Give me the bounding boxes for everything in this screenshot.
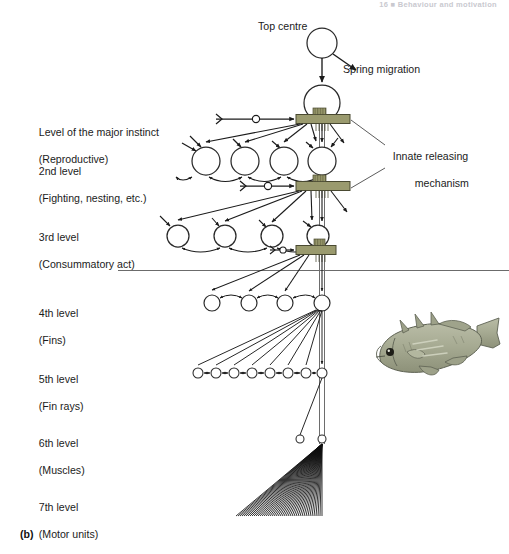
panel-label: (b) [20, 528, 34, 540]
level-7-line1: 7th level [39, 501, 78, 513]
level4-nodes [204, 295, 330, 311]
figure-canvas: 16 ■ Behaviour and motivation [0, 0, 509, 554]
irm-bar-3 [296, 239, 336, 262]
level-label-4: 4th level (Fins) [27, 294, 78, 360]
irm2-fanout [178, 191, 347, 222]
irm-label-line2: mechanism [393, 177, 469, 190]
level-5-line2: (Fin rays) [39, 400, 84, 412]
level5-node [193, 368, 203, 378]
level-label-3: 3rd level (Consummatory act) [27, 218, 135, 284]
block-symbol-2 [240, 181, 294, 191]
motor-unit-fan [236, 444, 322, 516]
level4-node [277, 295, 293, 311]
level-label-6: 6th level (Muscles) [27, 424, 85, 490]
level3-node [214, 225, 236, 247]
irm-bar-2 [296, 175, 350, 198]
level3-node [167, 225, 189, 247]
level5-node [211, 368, 221, 378]
label-innate-releasing-mechanism: Innate releasing mechanism [381, 137, 469, 203]
level-1-line1: Level of the major instinct [39, 126, 159, 138]
top-centre-node [307, 28, 337, 58]
level-4-line1: 4th level [39, 307, 78, 319]
level5-node [229, 368, 239, 378]
level-2-line2: (Fighting, nesting, etc.) [39, 192, 147, 204]
level2-nodes [192, 147, 336, 175]
level5-to-level6 [300, 378, 322, 435]
level-4-line2: (Fins) [39, 334, 66, 346]
level5-node [301, 368, 311, 378]
irm1-fanout [206, 124, 344, 143]
irm-leader-2 [351, 168, 385, 188]
level4-node [204, 295, 220, 311]
level6-node [318, 435, 326, 443]
level-6-line1: 6th level [39, 437, 78, 449]
level-5-line1: 5th level [39, 373, 78, 385]
level-3-line2: (Consummatory act) [39, 258, 135, 270]
level4-fanout [198, 310, 322, 365]
level2-node [192, 147, 220, 175]
label-top-centre: Top centre [258, 20, 307, 33]
level3-node [261, 225, 283, 247]
level-label-5: 5th level (Fin rays) [27, 360, 84, 426]
level-7-line2: (Motor units) [39, 528, 98, 540]
irm-leader-1 [351, 120, 385, 145]
irm-bar-1 [296, 108, 350, 131]
level-label-2: 2nd level (Fighting, nesting, etc.) [27, 152, 147, 218]
level4-node [314, 295, 330, 311]
level5-node [317, 368, 327, 378]
level5-node [247, 368, 257, 378]
label-spring-migration: Spring migration [343, 63, 420, 76]
level2-node [231, 147, 259, 175]
block-symbol-1 [216, 114, 294, 124]
level-6-line2: (Muscles) [39, 464, 85, 476]
level6-node [296, 435, 304, 443]
level4-inhibition [220, 295, 315, 298]
irm3-fanout [212, 255, 322, 291]
level2-inhibition [176, 177, 319, 182]
level2-node [270, 147, 298, 175]
level3-nodes [167, 225, 329, 247]
stickleback-fish-illustration [373, 300, 504, 392]
irm-label-line1: Innate releasing [393, 150, 468, 162]
level5-node [265, 368, 275, 378]
level-2-line1: 2nd level [39, 165, 81, 177]
level-3-line1: 3rd level [39, 231, 79, 243]
level5-node [283, 368, 293, 378]
level4-node [241, 295, 257, 311]
level-label-7: 7th level (Motor units) [27, 488, 98, 554]
level2-node [308, 147, 336, 175]
level6-nodes [296, 435, 326, 443]
